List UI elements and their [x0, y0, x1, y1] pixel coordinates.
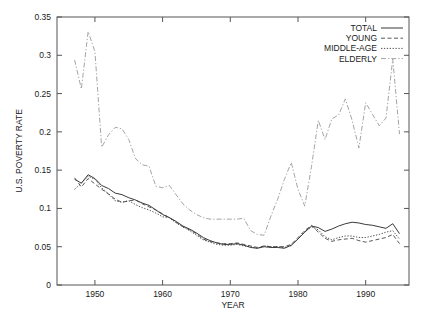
- y-axis-title: U.S. POVERTY RATE: [14, 109, 24, 193]
- series-line-total: [75, 175, 400, 249]
- legend-label-total: TOTAL: [350, 23, 377, 33]
- x-axis-title: YEAR: [221, 300, 244, 310]
- poverty-rate-chart-figure: 00.050.10.150.20.250.30.3519501960197019…: [0, 0, 429, 320]
- series-layer: [75, 32, 400, 249]
- x-tick-label: 1960: [153, 289, 172, 299]
- legend-label-middle-age: MIDDLE-AGE: [324, 43, 377, 53]
- y-tick-label: 0: [46, 280, 51, 290]
- x-tick-label: 1990: [356, 289, 375, 299]
- y-tick-label: 0.25: [34, 89, 51, 99]
- y-tick-label: 0.1: [39, 203, 51, 213]
- series-line-middle-age: [75, 176, 400, 248]
- x-tick-label: 1980: [289, 289, 308, 299]
- chart-canvas: 00.050.10.150.20.250.30.3519501960197019…: [0, 0, 429, 320]
- x-tick-label: 1950: [85, 289, 104, 299]
- y-tick-label: 0.35: [34, 12, 51, 22]
- y-tick-label: 0.3: [39, 50, 51, 60]
- x-tick-label: 1970: [221, 289, 240, 299]
- y-tick-label: 0.2: [39, 127, 51, 137]
- series-line-young: [75, 178, 400, 248]
- y-tick-label: 0.05: [34, 242, 51, 252]
- legend-label-young: YOUNG: [346, 33, 377, 43]
- legend-label-elderly: ELDERLY: [339, 54, 377, 64]
- y-tick-label: 0.15: [34, 165, 51, 175]
- legend-layer: TOTALYOUNGMIDDLE-AGEELDERLY: [324, 23, 403, 64]
